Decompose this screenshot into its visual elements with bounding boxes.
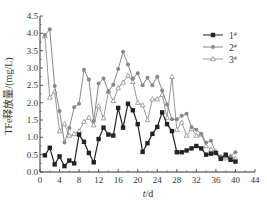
legend-item-2: 2#: [203, 43, 238, 53]
data-point-marker: [199, 132, 203, 136]
data-point-marker: [233, 150, 237, 154]
data-point-marker: [82, 68, 86, 72]
legend-item-3: 3#: [203, 55, 238, 65]
data-point-marker: [165, 115, 170, 119]
legend-marker-icon: [211, 33, 215, 37]
data-point-marker: [155, 75, 159, 79]
x-axis-label-unit: /d: [146, 188, 154, 199]
data-point-marker: [87, 151, 91, 155]
data-point-marker: [126, 63, 130, 67]
y-tick-label: 1.5: [27, 115, 39, 125]
data-point-marker: [48, 27, 52, 31]
data-point-marker: [106, 89, 110, 93]
data-point-marker: [214, 151, 218, 155]
data-point-marker: [111, 133, 115, 137]
x-tick-label: 32: [192, 175, 201, 185]
data-point-marker: [96, 104, 101, 108]
x-tick-label: 44: [251, 175, 261, 185]
data-point-marker: [97, 82, 101, 86]
data-point-marker: [67, 126, 71, 130]
data-point-marker: [102, 76, 106, 80]
data-point-marker: [77, 132, 81, 136]
data-point-marker: [62, 141, 66, 145]
data-point-marker: [111, 98, 116, 102]
data-point-marker: [209, 139, 213, 143]
data-point-marker: [136, 71, 140, 75]
data-point-marker: [170, 74, 175, 78]
data-point-marker: [179, 120, 184, 124]
data-point-marker: [184, 148, 188, 152]
data-point-marker: [136, 122, 140, 126]
data-point-marker: [228, 158, 232, 162]
data-point-marker: [131, 108, 135, 112]
data-point-marker: [180, 114, 184, 118]
data-point-marker: [209, 147, 214, 151]
data-point-marker: [145, 118, 150, 122]
data-point-marker: [96, 137, 100, 141]
data-point-marker: [155, 125, 159, 129]
data-point-marker: [194, 144, 198, 148]
line-chart: 0481216202428323640440.00.51.01.52.02.53…: [0, 0, 267, 205]
data-series: [43, 27, 238, 168]
data-point-marker: [52, 162, 56, 166]
legend-label: 2#: [229, 43, 238, 53]
data-point-marker: [48, 146, 52, 150]
data-point-marker: [165, 102, 169, 106]
data-point-marker: [150, 83, 154, 87]
data-point-marker: [204, 141, 208, 145]
data-point-marker: [146, 76, 150, 80]
y-tick-label: 3.5: [27, 46, 39, 56]
data-point-marker: [43, 153, 47, 157]
y-tick-label: 2.5: [27, 80, 39, 90]
data-point-marker: [140, 150, 144, 154]
y-tick-label: 3.0: [27, 63, 39, 73]
data-point-marker: [223, 152, 227, 156]
data-point-marker: [92, 160, 96, 164]
y-tick-label: 4.5: [27, 11, 39, 21]
data-point-marker: [101, 125, 105, 129]
data-point-marker: [126, 102, 130, 106]
y-tick-label: 0.0: [27, 167, 39, 177]
data-point-marker: [111, 83, 115, 87]
x-axis-label: t/d: [143, 188, 154, 199]
data-point-marker: [67, 158, 71, 162]
x-tick-label: 40: [231, 175, 241, 185]
y-tick-label: 4.0: [27, 28, 39, 38]
x-tick-label: 20: [133, 175, 143, 185]
data-point-marker: [175, 117, 179, 121]
data-point-marker: [150, 97, 155, 101]
data-point-marker: [58, 109, 62, 113]
data-point-marker: [72, 105, 76, 109]
x-tick-label: 36: [211, 175, 221, 185]
x-tick-label: 4: [57, 175, 62, 185]
data-point-marker: [53, 84, 57, 88]
data-point-marker: [141, 83, 145, 87]
data-point-marker: [77, 129, 82, 133]
data-point-marker: [204, 152, 208, 156]
data-point-marker: [82, 140, 86, 144]
data-point-marker: [219, 157, 223, 161]
data-point-marker: [140, 103, 145, 107]
legend-item-1: 1#: [203, 31, 238, 41]
legend-label: 3#: [229, 55, 238, 65]
legend-label: 1#: [229, 31, 238, 41]
data-point-marker: [233, 159, 237, 163]
data-point-marker: [180, 150, 184, 154]
x-tick-label: 16: [114, 175, 124, 185]
data-point-marker: [150, 132, 154, 136]
data-point-marker: [209, 151, 213, 155]
data-point-marker: [72, 131, 77, 135]
data-point-marker: [126, 73, 131, 77]
data-point-marker: [106, 132, 110, 136]
data-point-marker: [170, 129, 174, 133]
y-tick-label: 1.0: [27, 132, 39, 142]
y-axis-label: TFe释放量/(mg/L): [2, 57, 15, 134]
legend-marker-icon: [211, 45, 215, 49]
x-tick-label: 28: [172, 175, 182, 185]
data-point-marker: [160, 110, 164, 114]
data-point-marker: [145, 141, 149, 145]
data-point-marker: [77, 102, 81, 106]
data-point-marker: [185, 112, 189, 116]
data-point-marker: [72, 161, 76, 165]
data-point-marker: [189, 125, 193, 129]
